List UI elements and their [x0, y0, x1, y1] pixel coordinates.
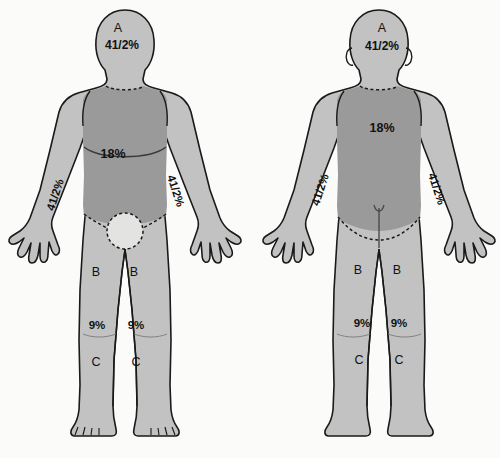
posterior-left-lower-leg-region-label: C [354, 353, 363, 367]
anterior-head-region-label: A [114, 21, 123, 35]
posterior-trunk-percent-label: 18% [369, 121, 394, 135]
posterior-head-region-label: A [378, 21, 387, 35]
anterior-left-leg-percent-label: 9% [89, 319, 106, 331]
anterior-genital-dashed-circle [107, 213, 143, 249]
anterior-right-thigh-region-label: B [130, 265, 138, 279]
anterior-left-thigh-region-label: B [92, 265, 100, 279]
posterior-head-percent-label: 41/2% [365, 39, 399, 53]
burn-chart-diagram: A 41/2% 18% 41/2% 41/2% B B 9% 9% C C [0, 0, 500, 458]
posterior-right-leg-percent-label: 9% [391, 317, 408, 329]
anterior-right-lower-leg-region-label: C [131, 355, 140, 369]
posterior-left-thigh-region-label: B [354, 263, 362, 277]
anterior-right-leg-percent-label: 9% [128, 319, 145, 331]
posterior-body-group: A 41/2% 18% 41/2% 41/2% B B 9% 9% C C [263, 10, 495, 436]
posterior-left-leg-percent-label: 9% [354, 317, 371, 329]
posterior-figure: A 41/2% 18% 41/2% 41/2% B B 9% 9% C C [258, 0, 500, 458]
posterior-right-thigh-region-label: B [393, 263, 401, 277]
anterior-body-group: A 41/2% 18% 41/2% 41/2% B B 9% 9% C C [9, 10, 241, 436]
anterior-figure: A 41/2% 18% 41/2% 41/2% B B 9% 9% C C [0, 0, 250, 458]
anterior-left-lower-leg-region-label: C [91, 355, 100, 369]
anterior-trunk-percent-label: 18% [100, 147, 125, 161]
anterior-head-percent-label: 41/2% [105, 38, 139, 52]
posterior-right-lower-leg-region-label: C [394, 353, 403, 367]
